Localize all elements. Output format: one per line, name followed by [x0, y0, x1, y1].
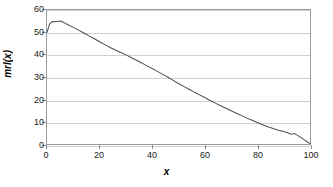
x-tick-label: 0	[31, 151, 61, 160]
x-tick-label: 80	[243, 151, 273, 160]
y-tick-label: 60	[34, 5, 44, 14]
y-tick-label: 20	[34, 96, 44, 105]
x-tick-label: 100	[296, 151, 326, 160]
y-tick-label: 30	[34, 73, 44, 82]
y-axis-title: mrl(x)	[2, 50, 16, 78]
x-tick-label: 20	[84, 151, 114, 160]
x-tick-mark	[311, 145, 312, 149]
x-tick-label: 40	[137, 151, 167, 160]
y-tick-label: 10	[34, 118, 44, 127]
y-tick-label: 0	[39, 141, 44, 150]
chart-container: mrl(x) 0102030405060020406080100 x	[0, 0, 333, 187]
series-line-mrl	[47, 10, 310, 144]
y-tick-label: 50	[34, 28, 44, 37]
x-tick-label: 60	[190, 151, 220, 160]
x-tick-mark	[99, 145, 100, 149]
y-tick-label: 40	[34, 50, 44, 59]
plot-area	[46, 9, 311, 145]
x-tick-mark	[46, 145, 47, 149]
x-tick-mark	[152, 145, 153, 149]
x-tick-mark	[205, 145, 206, 149]
x-axis-title: x	[0, 166, 333, 177]
gridline	[47, 146, 310, 147]
x-tick-mark	[258, 145, 259, 149]
